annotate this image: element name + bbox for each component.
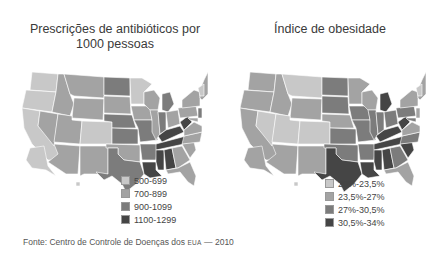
legend-item: 1100-1299 <box>121 213 176 226</box>
legend-label: 30,5%-34% <box>338 218 385 228</box>
state-nm <box>80 146 108 176</box>
state-sd <box>104 96 131 114</box>
source-prefix: Fonte: Centro de Controle de Doenças dos <box>23 237 187 247</box>
legend-swatch <box>121 215 130 224</box>
state-nd <box>322 77 348 96</box>
state-pa <box>178 106 198 118</box>
legend-item: 900-1099 <box>121 200 176 213</box>
state-nm <box>298 146 326 176</box>
legend-swatch <box>325 205 334 214</box>
state-ms <box>374 150 382 170</box>
legend-label: 23,5%-27% <box>338 192 385 202</box>
legend-label: 27%-30,5% <box>338 205 385 215</box>
state-hi <box>294 182 298 186</box>
legend-label: 20%-23,5% <box>338 179 385 189</box>
state-mi <box>380 92 392 112</box>
state-hi <box>76 182 80 186</box>
state-ms <box>156 150 164 170</box>
state-ny <box>182 90 200 108</box>
legend-item: 500-699 <box>121 174 176 187</box>
state-wa <box>248 72 276 92</box>
state-ks <box>330 128 356 144</box>
source-suffix: — 2010 <box>202 237 234 247</box>
state-pa <box>396 106 416 118</box>
state-oh <box>166 110 180 128</box>
state-wy <box>72 98 104 120</box>
legend-item: 23,5%-27% <box>325 190 385 203</box>
state-nj <box>416 108 420 118</box>
state-ar <box>358 144 376 160</box>
legend-item: 20%-23,5% <box>325 177 385 190</box>
state-nj <box>198 108 202 118</box>
state-ar <box>140 144 158 160</box>
state-co <box>80 121 112 144</box>
legend-swatch <box>325 192 334 201</box>
legend-label: 700-899 <box>134 189 167 199</box>
state-co <box>298 121 330 144</box>
legend-swatch <box>121 202 130 211</box>
antibiotics-us-map <box>18 64 208 194</box>
legend-swatch <box>121 176 130 185</box>
left-map-title: Prescrições de antibióticos por 1000 pes… <box>20 22 210 52</box>
legend-label: 500-699 <box>134 176 167 186</box>
state-mi <box>162 92 174 112</box>
legend-swatch <box>325 218 334 227</box>
state-oh <box>384 110 398 128</box>
legend-label: 1100-1299 <box>134 215 176 225</box>
obesity-legend: 20%-23,5% 23,5%-27% 27%-30,5% 30,5%-34% <box>325 177 385 229</box>
state-wy <box>290 98 322 120</box>
legend-label: 900-1099 <box>134 202 172 212</box>
legend-swatch <box>121 189 130 198</box>
state-nd <box>104 77 130 96</box>
state-wa <box>30 72 58 92</box>
legend-item: 30,5%-34% <box>325 216 385 229</box>
legend-item: 700-899 <box>121 187 176 200</box>
state-ny <box>400 90 418 108</box>
state-sd <box>322 96 349 114</box>
state-ks <box>112 128 138 144</box>
legend-swatch <box>325 179 334 188</box>
antibiotics-legend: 500-699 700-899 900-1099 1100-1299 <box>121 174 176 226</box>
source-abbr: EUA <box>187 239 201 246</box>
source-caption: Fonte: Centro de Controle de Doenças dos… <box>23 237 234 247</box>
obesity-us-map <box>236 64 426 194</box>
right-map-title: Índice de obesidade <box>250 22 410 37</box>
left-map-title-line1: Prescrições de antibióticos por <box>20 22 210 37</box>
legend-item: 27%-30,5% <box>325 203 385 216</box>
left-map-title-line2: 1000 pessoas <box>20 37 210 52</box>
